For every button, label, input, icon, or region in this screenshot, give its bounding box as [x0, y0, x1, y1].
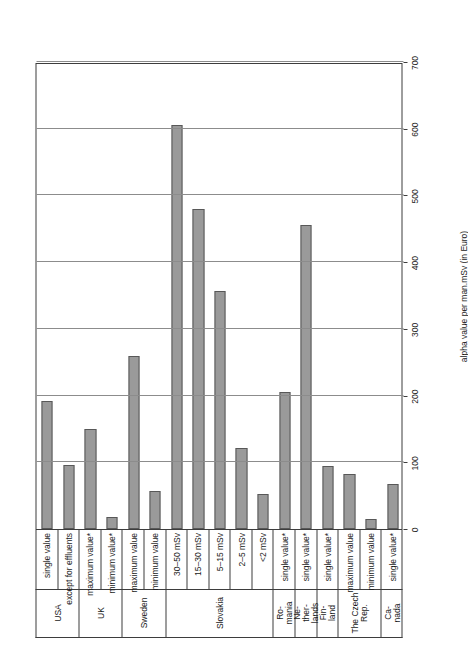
value-axis-tick-label: 600: [409, 123, 419, 137]
group-axis: USAUKSwedenSlovakiaRo-maniaNe-ther-lands…: [35, 590, 402, 638]
bar: [84, 429, 95, 529]
group-label-text: Fin-land: [318, 605, 336, 621]
group-label-text: Ca-nada: [383, 604, 401, 623]
value-axis-tick: [403, 396, 407, 397]
category-label-text: single value: [41, 533, 51, 578]
category-label: minimum value: [144, 529, 166, 589]
group-label-text: USA: [53, 604, 62, 621]
value-axis-title: alpha value per man.mSv (in Euro): [458, 231, 468, 362]
category-label-text: maximum value: [344, 533, 354, 593]
category-label: except for effluents: [58, 529, 80, 589]
category-label-text: single value*: [387, 533, 397, 581]
category-label: maximum value: [338, 529, 360, 589]
group-label-text: Slovakia: [215, 597, 224, 629]
value-axis-tick-label: 0: [409, 528, 419, 533]
group-label: Sweden: [122, 589, 165, 637]
bar: [41, 401, 52, 529]
bar: [192, 209, 203, 529]
bar: [365, 519, 376, 529]
plot-area: [35, 63, 402, 530]
value-axis-tick-label: 100: [409, 456, 419, 470]
value-axis-tick: [403, 329, 407, 330]
category-label: single value: [36, 529, 58, 589]
category-label-text: minimum value: [149, 533, 159, 590]
bar: [63, 465, 74, 529]
category-label: 2–5 mSv: [230, 529, 252, 589]
category-axis: single valueexcept for effluentsmaximum …: [35, 530, 402, 590]
category-label: single value*: [295, 529, 317, 589]
value-axis-tick: [403, 529, 407, 530]
category-label: single value*: [317, 529, 339, 589]
category-label: 15–30 mSv: [187, 529, 209, 589]
category-label-text: <2 mSv: [257, 533, 267, 562]
group-label: UK: [79, 589, 122, 637]
category-label-text: 2–5 mSv: [236, 533, 246, 567]
bars-layer: [36, 64, 401, 529]
value-axis-tick: [403, 195, 407, 196]
gridline: [36, 461, 403, 462]
bar: [149, 491, 160, 529]
value-axis-tick: [403, 62, 407, 63]
category-label: minimum value: [360, 529, 382, 589]
value-axis-tick-label: 700: [409, 56, 419, 70]
bar: [235, 448, 246, 529]
category-label-text: single value*: [300, 533, 310, 581]
category-label-text: maximum value*: [84, 533, 94, 596]
group-label-text: The CzechRep.: [350, 592, 368, 633]
bar: [300, 225, 311, 529]
category-label: maximum value*: [79, 529, 101, 589]
gridline: [36, 194, 403, 195]
bar: [387, 484, 398, 529]
group-label: The CzechRep.: [338, 589, 381, 637]
bar: [257, 494, 268, 529]
value-axis-tick-label: 300: [409, 323, 419, 337]
bar: [106, 517, 117, 529]
category-label-text: minimum value: [365, 533, 375, 590]
group-label: Ca-nada: [381, 589, 403, 637]
value-axis-tick: [403, 262, 407, 263]
group-label-text: Ro-mania: [275, 601, 293, 624]
value-axis-tick: [403, 462, 407, 463]
group-label-text: Ne-ther-lands: [292, 603, 319, 623]
category-label-text: 15–30 mSv: [192, 533, 202, 576]
category-label-text: single value*: [279, 533, 289, 581]
category-label: 5–15 mSv: [209, 529, 231, 589]
gridline: [36, 128, 403, 129]
group-label: Ne-ther-lands: [295, 589, 317, 637]
gridline: [36, 328, 403, 329]
category-label-text: 5–15 mSv: [214, 533, 224, 571]
gridline: [36, 261, 403, 262]
category-label: minimum value*: [101, 529, 123, 589]
category-label: 30–50 mSv: [166, 529, 188, 589]
value-axis-tick: [403, 129, 407, 130]
group-label-text: Sweden: [139, 598, 148, 629]
gridline: [36, 61, 403, 62]
category-label-text: minimum value*: [106, 533, 116, 593]
bar: [322, 466, 333, 529]
category-label-text: maximum value: [128, 533, 138, 593]
category-label: single value*: [381, 529, 403, 589]
category-label-text: except for effluents: [63, 533, 73, 605]
bar: [128, 356, 139, 529]
value-axis-tick-label: 400: [409, 256, 419, 270]
bar: [343, 474, 354, 529]
group-label: Slovakia: [166, 589, 274, 637]
bar: [214, 291, 225, 529]
group-label: Fin-land: [317, 589, 339, 637]
category-label: <2 mSv: [252, 529, 274, 589]
category-label: single value*: [273, 529, 295, 589]
value-axis-tick-label: 200: [409, 389, 419, 403]
category-label: maximum value: [122, 529, 144, 589]
group-label-text: UK: [96, 607, 105, 619]
value-axis-tick-label: 500: [409, 189, 419, 203]
category-label-text: 30–50 mSv: [171, 533, 181, 576]
category-label-text: single value*: [322, 533, 332, 581]
gridline: [36, 395, 403, 396]
